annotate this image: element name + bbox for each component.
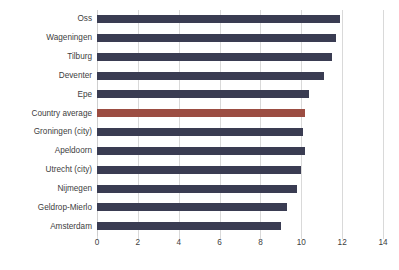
bar-nijmegen[interactable] — [97, 185, 297, 193]
bar-chart: OssWageningenTilburgDeventerEpeCountry a… — [0, 0, 399, 270]
category-label-nijmegen: Nijmegen — [0, 184, 92, 194]
category-label-tilburg: Tilburg — [0, 52, 92, 62]
bar-row — [97, 85, 383, 104]
bar-deventer[interactable] — [97, 72, 324, 80]
category-label-country-average: Country average — [0, 109, 92, 119]
bar-tilburg[interactable] — [97, 53, 332, 61]
bar-row — [97, 29, 383, 48]
bar-row — [97, 123, 383, 142]
plot-area — [97, 10, 383, 236]
bar-row — [97, 104, 383, 123]
bar-apeldoorn[interactable] — [97, 147, 305, 155]
category-label-deventer: Deventer — [0, 71, 92, 81]
bar-epe[interactable] — [97, 90, 309, 98]
category-label-amsterdam: Amsterdam — [0, 222, 92, 232]
x-tick-label-8: 8 — [245, 238, 275, 247]
category-label-oss: Oss — [0, 14, 92, 24]
x-tick-label-4: 4 — [164, 238, 194, 247]
bar-groningen-city[interactable] — [97, 128, 303, 136]
category-label-geldrop-mierlo: Geldrop-Mierlo — [0, 203, 92, 213]
gridline-14 — [383, 10, 384, 236]
bar-row — [97, 67, 383, 86]
x-tick-label-2: 2 — [123, 238, 153, 247]
bar-row — [97, 198, 383, 217]
category-label-wageningen: Wageningen — [0, 33, 92, 43]
bar-row — [97, 180, 383, 199]
category-label-utrecht-city: Utrecht (city) — [0, 165, 92, 175]
x-tick-label-14: 14 — [368, 238, 398, 247]
bar-row — [97, 161, 383, 180]
bar-utrecht-city[interactable] — [97, 166, 301, 174]
x-tick-label-0: 0 — [82, 238, 112, 247]
bar-wageningen[interactable] — [97, 34, 336, 42]
x-tick-label-10: 10 — [286, 238, 316, 247]
category-label-epe: Epe — [0, 90, 92, 100]
bar-country-average[interactable] — [97, 109, 305, 117]
category-label-apeldoorn: Apeldoorn — [0, 146, 92, 156]
bar-geldrop-mierlo[interactable] — [97, 203, 287, 211]
bar-oss[interactable] — [97, 15, 340, 23]
category-label-groningen-city: Groningen (city) — [0, 127, 92, 137]
bar-amsterdam[interactable] — [97, 222, 281, 230]
bar-row — [97, 142, 383, 161]
x-tick-label-12: 12 — [327, 238, 357, 247]
bar-row — [97, 48, 383, 67]
x-axis: 02468101214 — [0, 236, 399, 254]
bar-row — [97, 10, 383, 29]
x-tick-label-6: 6 — [205, 238, 235, 247]
bar-row — [97, 217, 383, 236]
